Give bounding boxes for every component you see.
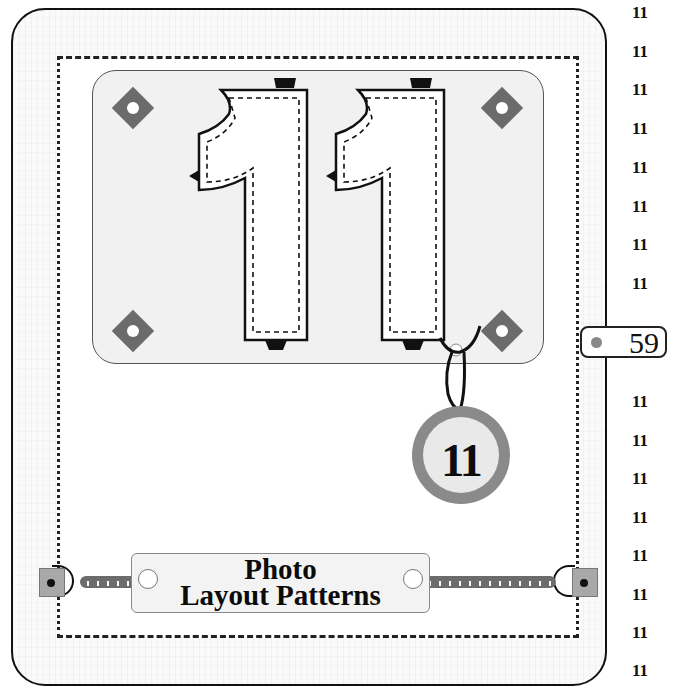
side-index-item: 11 (632, 274, 648, 294)
side-index-item: 11 (632, 508, 648, 528)
tab-dot-icon (591, 337, 602, 348)
left-clip-icon (39, 568, 65, 597)
side-index-item: 11 (632, 119, 648, 139)
numeral-one-right-icon (322, 78, 452, 358)
side-index-item: 11 (632, 392, 648, 412)
side-index-item: 11 (632, 431, 648, 451)
side-index-item: 11 (632, 197, 648, 217)
side-index-item: 11 (632, 3, 648, 23)
side-index-item: 11 (632, 469, 648, 489)
right-chain-icon (422, 576, 556, 588)
page-number-tab: 59 (580, 326, 667, 358)
page-number: 59 (629, 326, 659, 360)
side-index-item: 11 (632, 80, 648, 100)
side-index-item: 11 (632, 235, 648, 255)
side-index-item: 11 (632, 158, 648, 178)
side-index-item: 11 (632, 42, 648, 62)
side-index-item: 11 (632, 661, 648, 681)
medal-label: 11 (441, 434, 480, 487)
title-line-2: Layout Patterns (132, 580, 429, 610)
side-index-item: 11 (632, 546, 648, 566)
numeral-one-left-icon (185, 78, 315, 358)
title-plate: Photo Layout Patterns (131, 553, 430, 613)
medal-face: 11 (423, 417, 499, 493)
side-index-item: 11 (632, 585, 648, 605)
side-index-item: 11 (632, 623, 648, 643)
right-clip-icon (572, 568, 598, 597)
number-tag-medal: 11 (412, 406, 510, 504)
photo-panel (92, 70, 544, 364)
